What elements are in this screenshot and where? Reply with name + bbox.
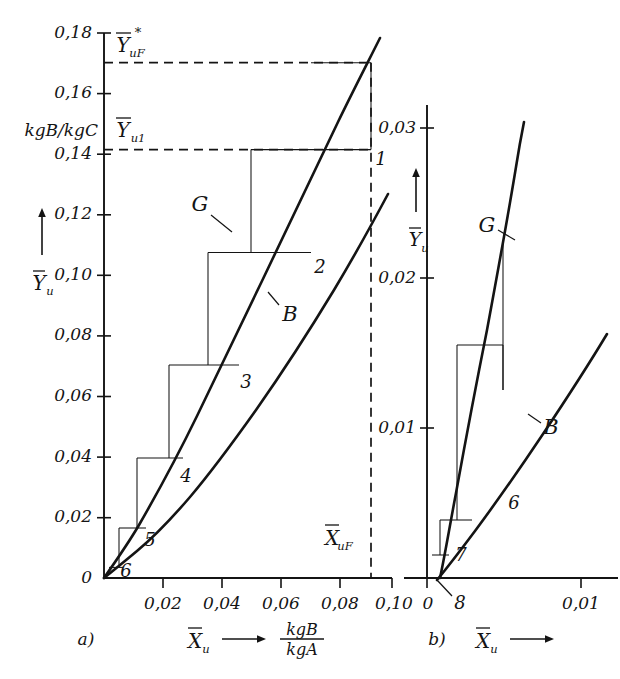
label-yuf-sup: * [135,25,142,40]
figure-canvas: 0,18 0,16 0,14 0,12 0,10 0,08 0,06 0,04 … [0,0,620,679]
panel-a-ytick-0.02: 0,02 [54,506,92,526]
label-yuf-sub: uF [129,46,145,60]
panel-a-y-name-sub: u [46,284,53,298]
panel-a-ytick-0.08: 0,08 [54,324,92,344]
panel-a-x-name-base: X [186,629,203,653]
panel-a-y-name-base: Y [32,271,47,295]
panel-b-curve-B-label: B [542,415,558,439]
panel-a-ytick-0.16: 0,16 [54,82,92,102]
panel-b-x-name-sub: u [490,642,497,656]
panel-a-xtick-0.06: 0,06 [262,593,300,613]
panel-a-xtick-0.08: 0,08 [321,593,359,613]
panel-a-ytick-0.06: 0,06 [54,385,92,405]
label-yu1-sub: u1 [131,131,146,145]
panel-b-y-name-sub: u [421,241,428,255]
panel-b-x-name-base: X [474,629,491,653]
panel-b-ytick-0.02: 0,02 [378,267,416,287]
panel-a-ytick-0.12: 0,12 [54,203,92,223]
panel-a-x-name-sub: u [202,642,209,656]
label-xuf-sub: uF [337,539,353,553]
panel-a-x-unit-denominator: kgA [286,640,318,659]
label-yu1-base: Y [116,118,131,142]
panel-b-curve-G-label: G [479,213,496,237]
panel-a-stage-2: 2 [313,256,325,277]
panel-a-stage-4: 4 [179,465,191,486]
panel-a-xtick-0.04: 0,04 [203,593,241,613]
panel-a-curve-B-label: B [281,302,297,326]
panel-b-ytick-0.03: 0,03 [378,117,416,137]
panel-a-stage-5: 5 [144,529,155,550]
panel-a-ytick-0.10: 0,10 [54,264,92,284]
panel-b-ytick-0.01: 0,01 [378,417,416,437]
panel-a-ytick-0.18: 0,18 [54,22,92,42]
panel-b-xtick-0: 0 [423,593,434,613]
diagram-svg: 0,18 0,16 0,14 0,12 0,10 0,08 0,06 0,04 … [0,0,620,679]
panel-b-stage-7: 7 [455,544,467,565]
panel-a-xtick-0.02: 0,02 [144,593,182,613]
panel-a-stage-3: 3 [240,371,251,392]
panel-a-xtick-0.10: 0,10 [375,593,413,613]
panel-a-ytick-0.04: 0,04 [54,446,92,466]
panel-b-stage-8: 8 [454,592,465,613]
panel-a-stage-6: 6 [120,560,131,581]
panel-a-label: a) [78,629,95,649]
panel-a-ytick-0: 0 [81,567,92,587]
panel-b-stage-6: 6 [508,492,519,513]
panel-a-y-unit: kgB/kgC [24,120,98,140]
panel-b-label: b) [428,629,446,649]
panel-a-stage-1: 1 [375,148,386,169]
panel-a-curve-G-label: G [192,192,209,216]
panel-b-xtick-0.01: 0,01 [562,593,600,613]
panel-a-ytick-0.14: 0,14 [54,143,92,163]
panel-a-x-unit-numerator: kgB [286,620,318,639]
